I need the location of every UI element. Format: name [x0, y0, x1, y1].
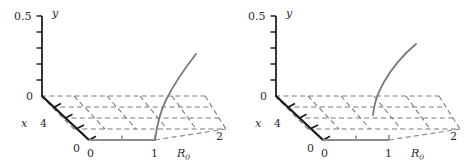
y-axis-max-label: 0.5 — [248, 10, 266, 23]
plot-panel-right: 0.5 0 y x 4 0 0 1 2 R0 — [234, 0, 468, 164]
r0-axis-mid-label: 1 — [151, 147, 158, 160]
x-axis-far-label: 0 — [73, 142, 80, 155]
x-axis-title: x — [255, 117, 262, 130]
r0-axis — [323, 129, 460, 140]
x-axis — [42, 96, 96, 140]
y-axis-max-label: 0.5 — [14, 10, 32, 23]
r0-axis-title: R0 — [410, 147, 424, 162]
r0-axis-end-label: 2 — [216, 130, 223, 143]
y-axis-title: y — [285, 7, 293, 20]
x-axis-title: x — [21, 117, 28, 130]
plot-canvas-left: 0.5 0 y x 4 0 0 1 2 R — [0, 0, 234, 164]
r0-axis-start-label: 0 — [87, 147, 94, 160]
two-panel-figure: 0.5 0 y x 4 0 0 1 2 R — [0, 0, 469, 164]
y-axis-min-label: 0 — [260, 90, 267, 103]
x-axis-mid-label: 4 — [274, 117, 281, 130]
r0-axis-end-label: 2 — [450, 130, 457, 143]
grid-mesh — [275, 96, 460, 129]
r0-axis-mid-label: 1 — [385, 147, 392, 160]
x-axis-far-label: 0 — [307, 142, 314, 155]
r0-axis-title: R0 — [176, 147, 190, 162]
r0-axis — [89, 129, 226, 140]
r0-axis-start-label: 0 — [321, 147, 328, 160]
plot-panel-left: 0.5 0 y x 4 0 0 1 2 R — [0, 0, 234, 164]
x-axis-mid-label: 4 — [40, 117, 47, 130]
y-axis-min-label: 0 — [26, 90, 33, 103]
y-axis — [37, 16, 43, 96]
y-axis — [271, 16, 277, 96]
x-axis — [276, 96, 330, 140]
data-curve — [155, 54, 196, 140]
grid-mesh — [41, 96, 226, 129]
data-curve — [373, 44, 416, 115]
plot-canvas-right: 0.5 0 y x 4 0 0 1 2 R0 — [234, 0, 468, 164]
y-axis-title: y — [51, 7, 59, 20]
